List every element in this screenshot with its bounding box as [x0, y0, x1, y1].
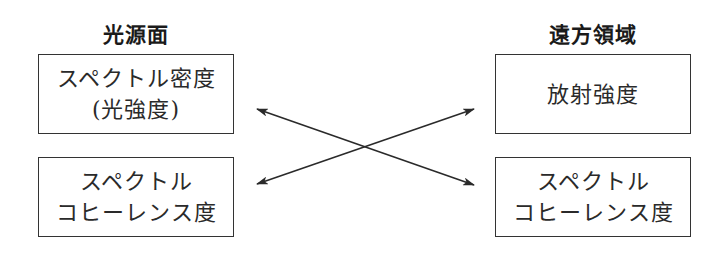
arrows-layer [0, 0, 728, 258]
